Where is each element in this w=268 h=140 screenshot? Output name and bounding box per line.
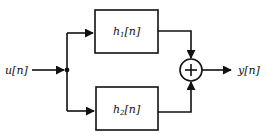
block-h2-label: h2[n]	[113, 103, 141, 117]
block-diagram: u[n] y[n] h1[n] h2[n]	[0, 0, 268, 140]
block-h1-name: h	[113, 25, 120, 38]
block-h1-arg: [n]	[125, 25, 141, 38]
input-label: u[n]	[5, 64, 28, 77]
junction-dot	[65, 68, 70, 73]
h2-to-adder-line	[158, 82, 191, 112]
block-h2-arg: [n]	[125, 103, 141, 116]
output-label: y[n]	[237, 64, 261, 77]
block-h1-label: h1[n]	[113, 25, 141, 39]
h1-to-adder-line	[158, 31, 191, 58]
block-h2-name: h	[113, 103, 120, 116]
